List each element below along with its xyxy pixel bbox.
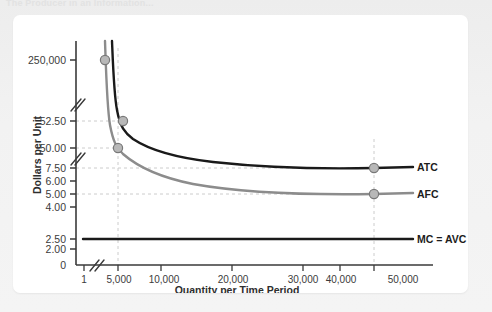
x-tick-label-1: 1 [81,274,87,285]
atc-curve [112,41,413,168]
y-axis-break-upper [71,99,85,111]
page-header: The Producer in an Information... [0,0,492,11]
marker-afc-5000-50-00 [113,143,122,152]
y-axis-title: Dollars per Unit [31,115,43,194]
y-tick-label-50-00: 50.00 [40,142,66,154]
y-tick-label-4-00: 4.00 [46,201,67,213]
y-tick-label-250000: 250,000 [28,54,66,66]
x-axis-ticks [84,265,374,271]
marker-afc-50000-5-00 [369,189,378,198]
y-tick-label-0: 0 [60,259,66,271]
y-tick-label-2-00: 2.00 [46,243,67,255]
y-axis-break-lower [71,153,85,165]
curve-label-afc: AFC [417,188,439,200]
marker-atc-5000-52-50 [118,116,127,125]
afc-curve [105,41,413,194]
x-tick-label-5000: 5,000 [106,274,131,285]
marker-atc-50000-7-50 [369,163,378,172]
curve-label-mc-avc: MC = AVC [417,233,467,245]
x-tick-label-40000: 40,000 [326,274,357,285]
y-tick-label-6-00: 6.00 [46,175,67,187]
curve-label-atc: ATC [417,161,438,173]
y-tick-label-52-50: 52.50 [40,115,66,127]
y-tick-label-5-00: 5.00 [46,188,67,200]
guide-lines [76,48,374,265]
y-axis-ticks [70,60,76,249]
x-tick-label-50000: 50,000 [388,274,419,285]
figure-card: 250,000 52.50 50.00 7.50 6.00 5.00 4.00 … [13,15,468,293]
x-axis-title: Quantity per Time Period [175,284,300,293]
marker-afc-1-250000 [100,55,109,64]
page-title: The Producer in an Information... [6,0,154,8]
cost-curves-chart: 250,000 52.50 50.00 7.50 6.00 5.00 4.00 … [13,15,468,293]
y-tick-label-7-50: 7.50 [46,162,67,174]
data-markers [100,55,378,198]
